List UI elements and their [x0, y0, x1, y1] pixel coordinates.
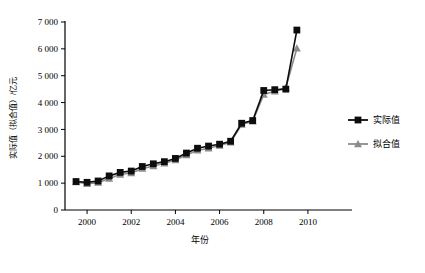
marker-actual — [139, 163, 146, 170]
y-tick-label: 4 000 — [38, 98, 59, 108]
marker-actual — [238, 120, 245, 127]
marker-actual — [216, 141, 223, 148]
marker-actual — [150, 160, 157, 167]
y-axis-ticks: 01 0002 0003 0004 0005 0006 0007 000 — [38, 17, 65, 215]
legend-label: 拟合值 — [373, 138, 400, 149]
marker-actual — [227, 138, 234, 145]
chart-container: 01 0002 0003 0004 0005 0006 0007 000 200… — [0, 0, 425, 273]
x-axis-label: 年份 — [191, 234, 209, 245]
x-tick-label: 2004 — [166, 217, 185, 227]
y-tick-label: 2 000 — [38, 151, 59, 161]
y-tick-label: 1 000 — [38, 178, 59, 188]
y-axis-label: 实际值（拟合值）/亿元 — [8, 77, 18, 159]
marker-actual — [271, 86, 278, 93]
marker-actual — [183, 150, 190, 157]
y-tick-label: 5 000 — [38, 71, 59, 81]
y-tick-label: 6 000 — [38, 44, 59, 54]
marker-actual — [293, 27, 300, 34]
marker-actual — [73, 178, 80, 185]
line-chart: 01 0002 0003 0004 0005 0006 0007 000 200… — [0, 0, 425, 273]
marker-actual — [106, 172, 113, 179]
y-tick-label: 7 000 — [38, 17, 59, 27]
x-axis-ticks: 200020022004200620082010 — [78, 210, 317, 227]
marker-actual — [172, 155, 179, 162]
series-line-fitted — [76, 48, 297, 183]
marker-actual — [161, 158, 168, 165]
marker-actual — [117, 169, 124, 176]
marker-actual — [205, 143, 212, 150]
chart-legend: 实际值拟合值 — [348, 114, 400, 149]
marker-actual — [249, 117, 256, 124]
marker-actual — [260, 87, 267, 94]
x-tick-label: 2000 — [78, 217, 97, 227]
y-tick-label: 3 000 — [38, 125, 59, 135]
x-tick-label: 2002 — [122, 217, 140, 227]
legend-marker-actual — [355, 117, 362, 124]
legend-label: 实际值 — [373, 114, 400, 125]
y-tick-label: 0 — [54, 205, 59, 215]
marker-actual — [128, 168, 135, 175]
marker-actual — [95, 178, 102, 185]
series-line-actual — [76, 30, 297, 182]
x-tick-label: 2010 — [299, 217, 318, 227]
x-tick-label: 2006 — [211, 217, 230, 227]
marker-actual — [84, 179, 91, 186]
data-series — [72, 27, 301, 187]
marker-actual — [282, 86, 289, 93]
marker-actual — [194, 145, 201, 152]
x-tick-label: 2008 — [255, 217, 274, 227]
